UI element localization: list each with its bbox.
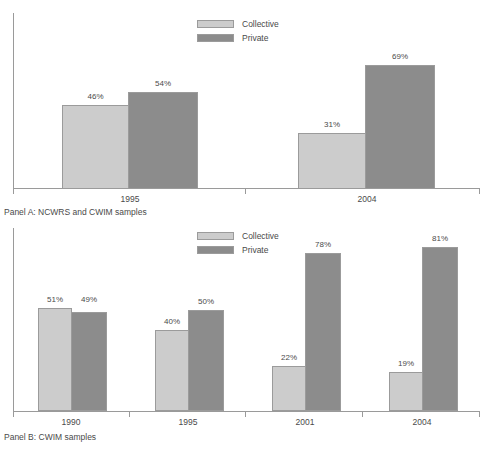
panel-a-tick-right: [479, 189, 480, 194]
bar-1990-collective: [38, 308, 72, 411]
bar-label-1995-private: 50%: [184, 297, 228, 307]
bar-label-1990-private: 49%: [67, 295, 111, 305]
bar-1995-collective: [155, 330, 189, 411]
bar-label-2004-private: 69%: [365, 52, 435, 62]
panel-b-tick-3: [362, 412, 363, 417]
panel-b-x-axis: [13, 411, 480, 412]
bar-2004-private: [422, 247, 458, 411]
panel-b-tick-2: [245, 412, 246, 417]
bar-2001-private: [305, 253, 341, 411]
x-label-panel-b-1995: 1995: [158, 417, 218, 428]
legend-swatch-private-icon: [197, 34, 234, 42]
panel-a: Collective Private 46% 54% 1995 31% 69% …: [0, 0, 497, 215]
legend-swatch-collective-icon: [197, 232, 234, 240]
bar-2004-private: [365, 65, 435, 189]
panel-a-tick-left: [13, 189, 14, 194]
legend-swatch-collective-icon: [197, 20, 234, 28]
bar-label-2004-private: 81%: [418, 234, 462, 244]
panel-a-tick-mid: [245, 189, 246, 194]
bar-2001-collective: [272, 366, 306, 411]
x-label-panel-b-2004: 2004: [392, 417, 452, 428]
bar-label-1995-collective: 46%: [62, 92, 129, 102]
bar-1995-private: [128, 92, 198, 189]
legend-label-collective: Collective: [242, 18, 279, 30]
panel-b-caption: Panel B: CWIM samples: [4, 432, 96, 443]
legend-label-private: Private: [242, 32, 268, 44]
bar-1995-private: [188, 310, 224, 411]
bar-2004-collective: [298, 133, 366, 189]
panel-a-y-axis: [13, 13, 14, 189]
bar-1995-collective: [62, 105, 129, 189]
panel-b-tick-1: [129, 412, 130, 417]
legend-label-collective: Collective: [242, 230, 279, 242]
legend-label-private: Private: [242, 244, 268, 256]
panel-b-tick-4: [479, 412, 480, 417]
bar-label-2001-private: 78%: [301, 240, 345, 250]
bar-2004-collective: [389, 372, 423, 411]
x-label-panel-b-1990: 1990: [41, 417, 101, 428]
x-label-panel-b-2001: 2001: [275, 417, 335, 428]
bar-label-2004-collective: 31%: [298, 120, 366, 130]
panel-b-tick-0: [13, 412, 14, 417]
bar-label-1995-private: 54%: [128, 79, 198, 89]
bar-1990-private: [71, 312, 107, 411]
panel-b: Collective Private 51% 49% 1990 40% 50% …: [0, 215, 497, 461]
x-label-panel-a-1995: 1995: [100, 194, 160, 205]
x-label-panel-a-2004: 2004: [337, 194, 397, 205]
panel-b-y-axis: [13, 228, 14, 412]
legend-swatch-private-icon: [197, 246, 234, 254]
